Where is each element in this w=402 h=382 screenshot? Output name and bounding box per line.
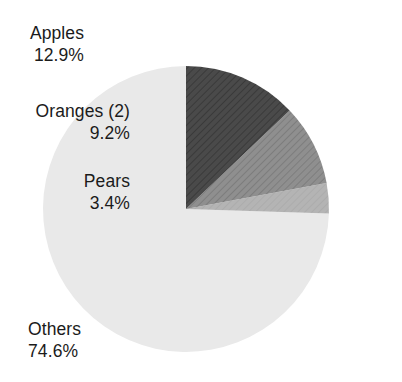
- pie-label-oranges-name: Oranges (2): [36, 100, 130, 122]
- pie-chart-figure: Apples 12.9% Oranges (2) 9.2% Pears 3.4%…: [0, 0, 402, 382]
- pie-label-pears-name: Pears: [84, 170, 130, 192]
- pie-label-others-name: Others: [28, 318, 81, 340]
- pie-label-pears-value: 3.4%: [84, 192, 130, 214]
- pie-label-pears: Pears 3.4%: [84, 170, 130, 215]
- pie-label-apples: Apples 12.9%: [30, 22, 84, 67]
- pie-label-others: Others 74.6%: [28, 318, 81, 363]
- pie-label-apples-value: 12.9%: [30, 44, 84, 66]
- pie-label-others-value: 74.6%: [28, 340, 81, 362]
- pie-label-apples-name: Apples: [30, 22, 84, 44]
- pie-label-oranges: Oranges (2) 9.2%: [36, 100, 130, 145]
- pie-label-oranges-value: 9.2%: [36, 122, 130, 144]
- pie-chart-page: Apples 12.9% Oranges (2) 9.2% Pears 3.4%…: [0, 0, 402, 382]
